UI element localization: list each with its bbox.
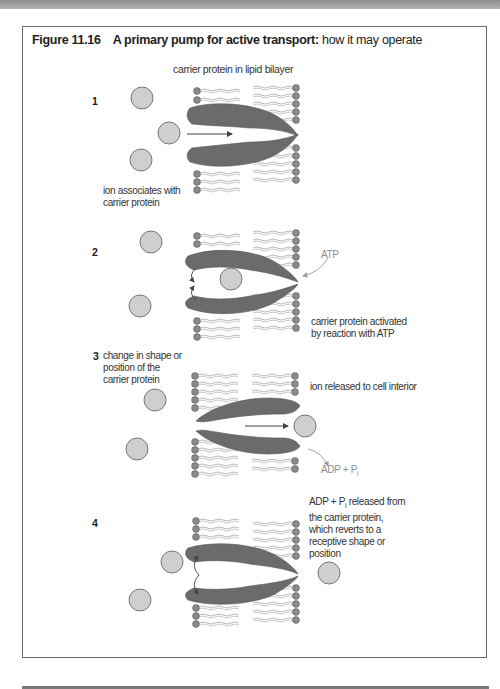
ion [130, 149, 152, 171]
step-2-illustration [129, 230, 328, 341]
ion [129, 295, 151, 317]
ion [158, 122, 180, 144]
step-4-illustration [129, 518, 340, 628]
carrier-protein-upper [187, 104, 298, 136]
arrow-icon [191, 268, 196, 282]
active-transport-diagram [0, 0, 500, 689]
step-3-illustration [126, 373, 328, 478]
ion [294, 415, 316, 437]
atp-arrow-icon [303, 258, 328, 276]
ion [144, 389, 166, 411]
carrier-protein-lower [186, 284, 298, 314]
ion [126, 438, 148, 460]
adp-arrow-icon [308, 449, 328, 466]
carrier-protein-lower [187, 134, 298, 166]
carrier-protein-lower [186, 576, 298, 604]
ion [129, 589, 151, 611]
ion [318, 562, 340, 584]
step-1-illustration [130, 85, 299, 194]
ion [220, 268, 242, 290]
ion [140, 231, 162, 253]
ion [131, 87, 153, 109]
ion [161, 551, 183, 573]
